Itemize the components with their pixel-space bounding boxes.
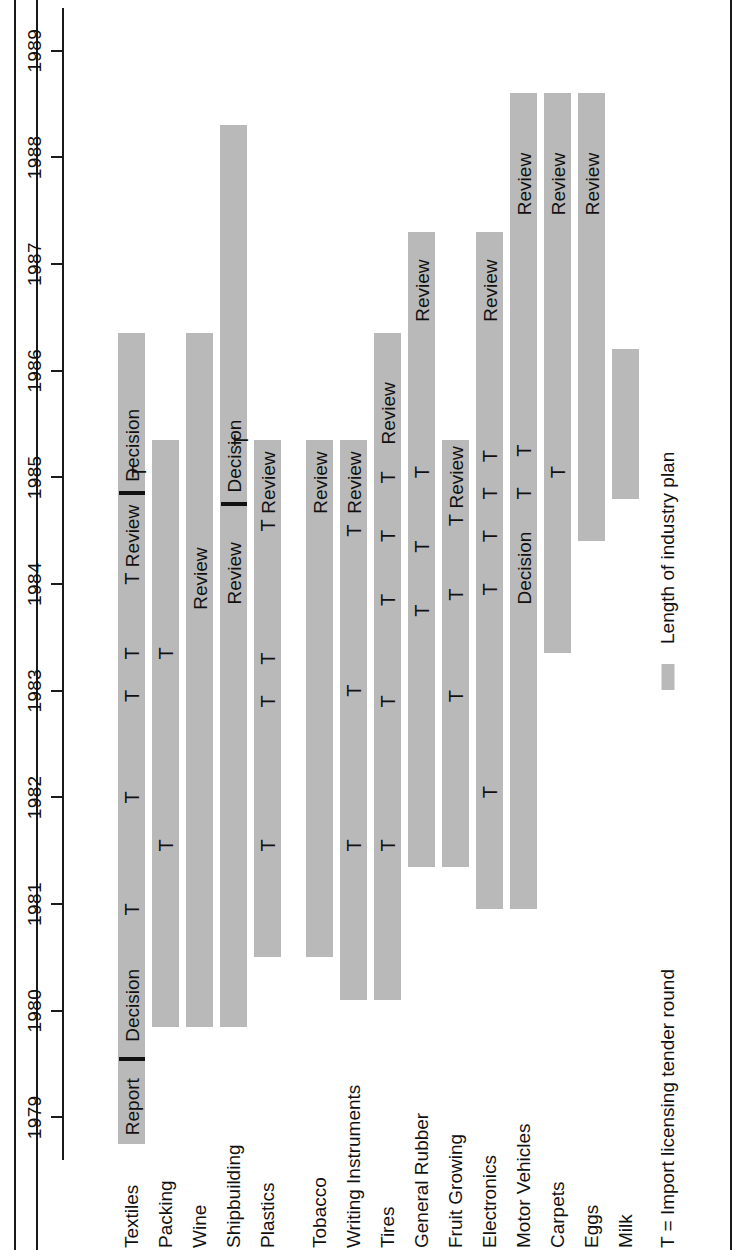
tender-round-marker: T (446, 690, 466, 702)
plan-bar-fruit-growing[interactable]: TTTReview (442, 440, 469, 867)
bar-markers: DecisionTTReview (510, 93, 537, 909)
tender-round-marker: T (258, 519, 278, 531)
tender-round-marker: T (258, 653, 278, 665)
tender-round-marker: T (378, 839, 398, 851)
bar-markers: TT (152, 440, 179, 1027)
milestone-label-report: Report (122, 1078, 141, 1135)
bar-markers: TTTTTReview (374, 333, 401, 1000)
year-tick-1979 (51, 1116, 62, 1118)
plan-bar-shipbuilding[interactable]: ReviewDecisionT (220, 125, 247, 1026)
decision-divider-mark (221, 502, 247, 506)
decision-divider-mark (119, 1057, 145, 1061)
milestone-label-review: Review (378, 382, 397, 444)
category-label-general-rubber: General Rubber (411, 1113, 433, 1248)
plan-bar-tobacco[interactable]: Review (306, 440, 333, 957)
plan-bar-eggs[interactable]: Review (578, 93, 605, 541)
year-tick-1984 (51, 583, 62, 585)
rotated-chart-canvas: 1979198019811982198319841985198619871988… (0, 0, 744, 1250)
bar-markers: TTTReview (408, 232, 435, 867)
bar-markers: ReportDecisionTTTTTReviewDecisionT (118, 333, 145, 1144)
milestone-label-review: Review (258, 452, 277, 514)
category-label-carpets: Carpets (547, 1181, 569, 1248)
tender-round-marker: T (378, 594, 398, 606)
tender-round-marker: T (344, 525, 364, 537)
year-tick-1980 (51, 1010, 62, 1012)
legend-plan-label: Length of industry plan (657, 452, 679, 644)
tender-round-marker: T (514, 445, 534, 457)
legend-plan-swatch (662, 664, 675, 690)
tender-round-marker: T (258, 839, 278, 851)
milestone-label-decision: Decision (224, 420, 243, 493)
bar-markers: Review (578, 93, 605, 541)
year-label-1981: 1981 (24, 882, 46, 926)
milestone-label-review: Review (412, 260, 431, 322)
milestone-label-review: Review (122, 505, 141, 567)
category-label-plastics: Plastics (257, 1183, 279, 1248)
tender-round-marker: T (412, 605, 432, 617)
legend-tender-note: T = Import licensing tender round (657, 969, 679, 1248)
tender-round-marker: T (480, 450, 500, 462)
year-label-1984: 1984 (24, 562, 46, 606)
milestone-label-review: Review (548, 153, 567, 215)
plan-bar-milk[interactable] (612, 349, 639, 498)
year-label-1986: 1986 (24, 349, 46, 393)
tender-round-marker: T (378, 695, 398, 707)
bar-markers: TTTReview (340, 440, 367, 1000)
tender-round-marker: T (378, 471, 398, 483)
plan-bar-motor-vehicles[interactable]: DecisionTTReview (510, 93, 537, 909)
category-label-tires: Tires (377, 1206, 399, 1248)
plan-bar-plastics[interactable]: TTTTReview (254, 440, 281, 957)
tender-round-marker: T (480, 583, 500, 595)
year-label-1983: 1983 (24, 669, 46, 713)
year-label-1982: 1982 (24, 775, 46, 819)
year-tick-1983 (51, 690, 62, 692)
tender-round-marker: T (480, 530, 500, 542)
plan-bar-writing-instruments[interactable]: TTTReview (340, 440, 367, 1000)
year-axis-line (62, 8, 64, 1160)
category-label-eggs: Eggs (581, 1205, 603, 1248)
year-tick-1985 (51, 476, 62, 478)
bar-markers: TTTTReview (254, 440, 281, 957)
bar-markers: ReviewDecisionT (220, 125, 247, 1026)
bar-markers: Review (306, 440, 333, 957)
milestone-label-review: Review (514, 153, 533, 215)
figure-root: 1979198019811982198319841985198619871988… (0, 0, 744, 1250)
tender-round-marker: T (378, 530, 398, 542)
plan-bar-packing[interactable]: TT (152, 440, 179, 1027)
plan-bar-textiles[interactable]: ReportDecisionTTTTTReviewDecisionT (118, 333, 145, 1144)
year-tick-1986 (51, 370, 62, 372)
year-label-1985: 1985 (24, 455, 46, 499)
milestone-label-review: Review (310, 452, 329, 514)
bar-markers: TTTTTReview (476, 232, 503, 909)
milestone-label-decision: Decision (514, 532, 533, 605)
tender-round-marker: T (412, 541, 432, 553)
plan-bar-tires[interactable]: TTTTTReview (374, 333, 401, 1000)
tender-round-marker: T (548, 466, 568, 478)
tender-round-marker: T (514, 487, 534, 499)
bar-markers (612, 349, 639, 498)
milestone-label-review: Review (582, 153, 601, 215)
tender-round-marker: T (156, 647, 176, 659)
year-label-1980: 1980 (24, 989, 46, 1033)
category-label-writing-instruments: Writing Instruments (343, 1085, 365, 1248)
category-label-milk: Milk (615, 1214, 637, 1248)
tender-round-marker: T (344, 685, 364, 697)
plan-bar-electronics[interactable]: TTTTTReview (476, 232, 503, 909)
bar-markers: TReview (544, 93, 571, 653)
category-label-packing: Packing (155, 1180, 177, 1248)
gantt-plot-area: 1979198019811982198319841985198619871988… (0, 0, 744, 1250)
category-label-fruit-growing: Fruit Growing (445, 1134, 467, 1248)
category-label-electronics: Electronics (479, 1155, 501, 1248)
milestone-label-review: Review (480, 260, 499, 322)
category-label-tobacco: Tobacco (309, 1177, 331, 1248)
plan-bar-carpets[interactable]: TReview (544, 93, 571, 653)
tender-round-marker: T (122, 791, 142, 803)
plan-bar-general-rubber[interactable]: TTTReview (408, 232, 435, 867)
milestone-label-review: Review (446, 446, 465, 508)
plan-bar-wine[interactable]: Review (186, 333, 213, 1026)
year-label-1988: 1988 (24, 135, 46, 179)
tender-round-marker: T (122, 903, 142, 915)
year-label-1987: 1987 (24, 242, 46, 286)
tender-round-marker: T (480, 487, 500, 499)
tender-round-marker: T (122, 647, 142, 659)
